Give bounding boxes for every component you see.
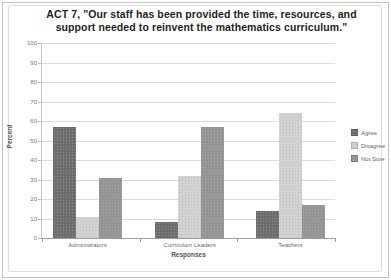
y-tick-label-100: 100 xyxy=(17,40,37,46)
bar-curriculum-leaders-disagree xyxy=(178,176,201,238)
plot-area: 0102030405060708090100AdministratorsCurr… xyxy=(42,43,335,238)
legend-label-not-sure: Not Sure xyxy=(361,156,385,162)
y-tick-mark xyxy=(38,141,41,142)
y-tick-mark xyxy=(38,199,41,200)
legend-swatch-agree xyxy=(351,129,358,136)
legend-label-agree: Agree xyxy=(361,130,377,136)
legend-item-disagree: Disagree xyxy=(351,139,385,152)
bar-curriculum-leaders-not-sure xyxy=(201,127,224,238)
y-tick-mark xyxy=(38,219,41,220)
y-tick-label-40: 40 xyxy=(17,157,37,163)
x-category-label-administrators: Administrators xyxy=(43,242,133,248)
legend-swatch-not-sure xyxy=(351,155,358,162)
legend-label-disagree: Disagree xyxy=(361,143,385,149)
x-tick-mark xyxy=(237,239,238,242)
legend-item-agree: Agree xyxy=(351,126,385,139)
x-axis-line xyxy=(41,238,336,239)
gridline-80 xyxy=(42,82,335,83)
y-tick-mark xyxy=(38,238,41,239)
y-tick-label-10: 10 xyxy=(17,216,37,222)
y-tick-label-60: 60 xyxy=(17,118,37,124)
y-tick-label-30: 30 xyxy=(17,177,37,183)
gridline-70 xyxy=(42,102,335,103)
gridline-90 xyxy=(42,63,335,64)
y-tick-mark xyxy=(38,82,41,83)
scanned-bar-chart-figure: ACT 7, "Our staff has been provided the … xyxy=(0,0,391,280)
y-tick-mark xyxy=(38,160,41,161)
y-tick-label-80: 80 xyxy=(17,79,37,85)
bar-administrators-disagree xyxy=(76,217,99,238)
gridline-100 xyxy=(42,43,335,44)
y-tick-label-0: 0 xyxy=(17,235,37,241)
y-tick-mark xyxy=(38,43,41,44)
x-axis-title: Responses xyxy=(42,251,335,258)
bar-curriculum-leaders-agree xyxy=(155,222,178,238)
y-tick-mark xyxy=(38,102,41,103)
chart-title: ACT 7, "Our staff has been provided the … xyxy=(34,8,369,34)
bar-teachers-disagree xyxy=(279,113,302,238)
y-tick-label-90: 90 xyxy=(17,60,37,66)
y-tick-label-70: 70 xyxy=(17,99,37,105)
bar-teachers-agree xyxy=(256,211,279,238)
bar-teachers-not-sure xyxy=(302,205,325,238)
legend: AgreeDisagreeNot Sure xyxy=(351,126,385,165)
y-tick-mark xyxy=(38,63,41,64)
x-category-label-teachers: Teachers xyxy=(246,242,336,248)
bar-administrators-not-sure xyxy=(99,178,122,238)
y-tick-label-50: 50 xyxy=(17,138,37,144)
y-axis-title: Percent xyxy=(6,67,13,207)
x-tick-mark xyxy=(140,239,141,242)
legend-item-not-sure: Not Sure xyxy=(351,152,385,165)
y-tick-mark xyxy=(38,180,41,181)
legend-swatch-disagree xyxy=(351,142,358,149)
bar-administrators-agree xyxy=(53,127,76,238)
y-tick-mark xyxy=(38,121,41,122)
x-category-label-curriculum-leaders: Curriculum Leaders xyxy=(145,242,235,248)
y-tick-label-20: 20 xyxy=(17,196,37,202)
